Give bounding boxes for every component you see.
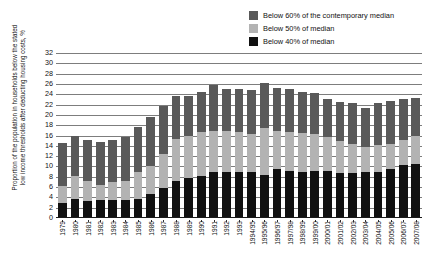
bar-segment-below-60 (235, 89, 244, 132)
legend-item-below-40: Below 40% of median (249, 36, 394, 46)
stacked-bar (361, 108, 370, 218)
y-axis-tick-label: 26 (45, 80, 53, 87)
x-axis-label-cell: 1991 (208, 220, 221, 268)
y-axis-title: Proportion of the population in househol… (11, 20, 26, 196)
bar-segment-below-50 (310, 134, 319, 170)
bar-segment-below-50 (96, 185, 105, 200)
chart-legend: Below 60% of the contemporary median Bel… (249, 10, 394, 46)
stacked-bar (108, 140, 117, 218)
stacked-bar (134, 127, 143, 218)
y-axis-tick-label: 32 (45, 49, 53, 56)
bar-column (94, 53, 107, 218)
bar-segment-below-40 (348, 173, 357, 218)
x-axis-tick-label: 2000/01 (324, 221, 331, 245)
bar-segment-below-40 (260, 175, 269, 218)
x-axis-tick-label: 1984 (122, 221, 129, 236)
y-axis-tick-label: 16 (45, 132, 53, 139)
bar-column (384, 53, 397, 218)
bar-segment-below-40 (108, 200, 117, 218)
legend-label-below-60: Below 60% of the contemporary median (263, 11, 394, 20)
bar-column (107, 53, 120, 218)
stacked-bar (209, 85, 218, 218)
bar-segment-below-60 (336, 102, 345, 141)
bar-column (296, 53, 309, 218)
y-axis-tick-label: 22 (45, 101, 53, 108)
bar-segment-below-50 (374, 145, 383, 172)
x-axis-tick-label: 1980 (71, 221, 78, 236)
stacked-bar (348, 103, 357, 218)
x-axis-label-cell: 1990 (195, 220, 208, 268)
x-axis-tick-label: 1996/97 (273, 221, 280, 245)
stacked-bar (399, 99, 408, 218)
bar-segment-below-60 (108, 140, 117, 182)
bar-segment-below-40 (411, 164, 420, 218)
y-axis-tick-label: 14 (45, 142, 53, 149)
bar-segment-below-40 (172, 181, 181, 218)
x-axis-tick-label: 1994/95 (248, 221, 255, 245)
bar-column (182, 53, 195, 218)
bar-column (233, 53, 246, 218)
bar-segment-below-60 (71, 136, 80, 176)
x-axis-label-cell: 1998/99 (296, 220, 309, 268)
bar-segment-below-50 (260, 128, 269, 175)
x-axis-label-cell: 1997/98 (283, 220, 296, 268)
x-axis-tick-label: 1988 (172, 221, 179, 236)
x-axis-tick-label: 1981 (84, 221, 91, 236)
bar-segment-below-60 (96, 142, 105, 185)
bar-segment-below-60 (184, 96, 193, 136)
bar-segment-below-50 (348, 144, 357, 173)
bar-segment-below-60 (58, 143, 67, 185)
bar-segment-below-40 (209, 172, 218, 218)
bar-segment-below-60 (134, 127, 143, 172)
stacked-bar (197, 92, 206, 218)
x-axis-tick-label: 1993 (236, 221, 243, 236)
bar-column (144, 53, 157, 218)
bar-segment-below-60 (348, 103, 357, 144)
x-axis-tick-label: 2006/07 (400, 221, 407, 245)
bar-segment-below-50 (411, 136, 420, 164)
y-axis-tick-label: 8 (49, 173, 53, 180)
x-axis-label-cell: 1995/96 (258, 220, 271, 268)
bar-column (69, 53, 82, 218)
bar-segment-below-40 (386, 169, 395, 219)
x-axis-tick-label: 1979 (59, 221, 66, 236)
bar-segment-below-50 (58, 186, 67, 204)
stacked-bar (121, 137, 130, 218)
x-axis-label-cell: 1986 (144, 220, 157, 268)
bar-segment-below-60 (247, 90, 256, 134)
x-axis-tick-label: 2003/04 (362, 221, 369, 245)
bar-column (346, 53, 359, 218)
bar-segment-below-50 (121, 181, 130, 200)
bar-segment-below-40 (184, 178, 193, 218)
stacked-bar (273, 88, 282, 218)
x-axis-label-cell: 1988 (170, 220, 183, 268)
stacked-bar (71, 136, 80, 219)
x-axis-tick-label: 2004/05 (374, 221, 381, 245)
x-axis-tick-label: 2001/02 (337, 221, 344, 245)
y-axis-tick-label: 4 (49, 194, 53, 201)
x-axis-label-cell: 1989 (182, 220, 195, 268)
bar-column (56, 53, 69, 218)
x-axis-tick-label: 1991 (210, 221, 217, 236)
stacked-bar (386, 101, 395, 218)
bar-segment-below-40 (83, 201, 92, 218)
x-axis-label-cell: 2001/02 (334, 220, 347, 268)
bar-segment-below-60 (197, 92, 206, 132)
x-axis-label-cell: 1982 (94, 220, 107, 268)
bar-segment-below-60 (285, 89, 294, 132)
x-axis-tick-label: 1986 (147, 221, 154, 236)
legend-swatch-below-40 (249, 37, 258, 46)
legend-item-below-60: Below 60% of the contemporary median (249, 10, 394, 20)
x-axis-label-cell: 1993 (233, 220, 246, 268)
bar-segment-below-50 (361, 147, 370, 172)
stacked-bar (83, 140, 92, 218)
bar-segment-below-50 (336, 141, 345, 173)
x-axis-label-cell: 2006/07 (397, 220, 410, 268)
bar-column (271, 53, 284, 218)
stacked-bar (336, 102, 345, 218)
bar-column (220, 53, 233, 218)
x-axis-label-cell: 2002/03 (346, 220, 359, 268)
bar-segment-below-50 (298, 133, 307, 172)
x-axis-labels: 1979198019811982198319841985198619871988… (56, 220, 422, 268)
bar-segment-below-50 (399, 140, 408, 165)
